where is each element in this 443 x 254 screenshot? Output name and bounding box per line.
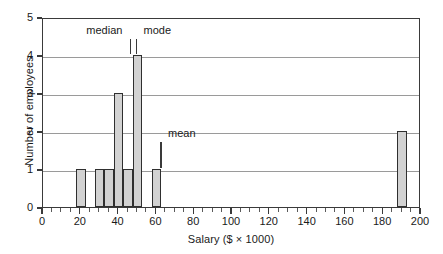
- x-tick-minor: [183, 208, 184, 212]
- mean-label: mean: [147, 127, 217, 139]
- x-tick-minor: [89, 208, 90, 212]
- bar: [133, 55, 142, 207]
- bar: [123, 169, 132, 207]
- x-tick-label: 60: [135, 216, 175, 227]
- x-tick-minor: [316, 208, 317, 212]
- x-axis-title: Salary ($ × 1000): [42, 233, 420, 245]
- x-tick-minor: [145, 208, 146, 212]
- x-tick-minor: [353, 208, 354, 212]
- x-tick-major: [306, 208, 307, 214]
- x-tick-minor: [287, 208, 288, 212]
- x-tick-major: [268, 208, 269, 214]
- x-tick-minor: [259, 208, 260, 212]
- histogram-figure: Number of employees Salary ($ × 1000) 01…: [0, 0, 443, 254]
- x-tick-minor: [164, 208, 165, 212]
- bar: [104, 169, 113, 207]
- x-tick-label: 120: [249, 216, 289, 227]
- x-tick-minor: [60, 208, 61, 212]
- x-tick-label: 40: [98, 216, 138, 227]
- x-tick-major: [41, 208, 42, 214]
- y-tick-label: 4: [0, 50, 33, 61]
- x-tick-minor: [51, 208, 52, 212]
- gridline: [43, 95, 419, 96]
- x-tick-minor: [212, 208, 213, 212]
- gridline: [43, 57, 419, 58]
- x-tick-minor: [297, 208, 298, 212]
- mode-label: mode: [122, 24, 192, 36]
- x-tick-minor: [410, 208, 411, 212]
- x-tick-minor: [174, 208, 175, 212]
- x-tick-label: 180: [362, 216, 402, 227]
- x-tick-major: [79, 208, 80, 214]
- mode-marker: [136, 39, 137, 54]
- x-tick-minor: [98, 208, 99, 212]
- x-tick-major: [344, 208, 345, 214]
- plot-area: [42, 18, 420, 208]
- y-axis-title: Number of employees: [23, 16, 35, 206]
- gridline: [43, 133, 419, 134]
- x-tick-major: [117, 208, 118, 214]
- x-tick-minor: [363, 208, 364, 212]
- x-tick-minor: [240, 208, 241, 212]
- x-tick-label: 200: [400, 216, 440, 227]
- x-tick-minor: [249, 208, 250, 212]
- x-tick-major: [155, 208, 156, 214]
- x-tick-major: [419, 208, 420, 214]
- x-tick-minor: [202, 208, 203, 212]
- x-tick-label: 80: [173, 216, 213, 227]
- x-tick-minor: [372, 208, 373, 212]
- y-tick-label: 5: [0, 12, 33, 23]
- x-tick-label: 20: [60, 216, 100, 227]
- y-tick-label: 3: [0, 88, 33, 99]
- x-tick-major: [230, 208, 231, 214]
- x-tick-minor: [221, 208, 222, 212]
- x-tick-minor: [391, 208, 392, 212]
- bar: [397, 131, 406, 207]
- x-tick-minor: [278, 208, 279, 212]
- x-tick-minor: [334, 208, 335, 212]
- x-tick-label: 140: [287, 216, 327, 227]
- y-tick-label: 0: [0, 202, 33, 213]
- x-tick-minor: [401, 208, 402, 212]
- x-tick-minor: [127, 208, 128, 212]
- x-tick-minor: [108, 208, 109, 212]
- bar: [76, 169, 85, 207]
- x-tick-label: 0: [22, 216, 62, 227]
- x-tick-minor: [70, 208, 71, 212]
- x-tick-minor: [136, 208, 137, 212]
- mean-marker: [160, 142, 161, 169]
- x-tick-label: 100: [211, 216, 251, 227]
- bar: [114, 93, 123, 207]
- x-tick-major: [193, 208, 194, 214]
- median-marker: [130, 39, 131, 54]
- x-tick-major: [382, 208, 383, 214]
- x-tick-minor: [325, 208, 326, 212]
- y-tick-label: 1: [0, 164, 33, 175]
- bar: [152, 169, 161, 207]
- bar: [95, 169, 104, 207]
- x-tick-label: 160: [324, 216, 364, 227]
- y-tick-label: 2: [0, 126, 33, 137]
